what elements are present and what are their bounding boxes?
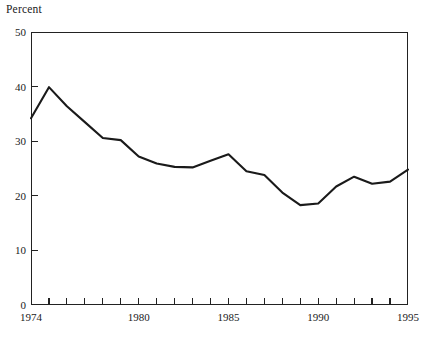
line-chart: Percent 01020304050 19741980198519901995	[0, 0, 427, 338]
series-line-percent	[31, 87, 408, 205]
data-series-layer	[0, 0, 427, 338]
